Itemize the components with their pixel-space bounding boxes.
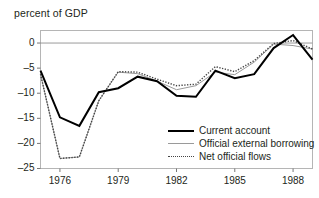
line-solid-thin-icon — [168, 138, 194, 150]
line-solid-thick-icon — [168, 125, 194, 137]
y-tick-label: –5 — [2, 62, 35, 73]
x-tick-label: 1982 — [157, 175, 197, 186]
chart-legend: Current account Official external borrow… — [168, 124, 314, 163]
line-dotted-icon — [168, 151, 194, 163]
series-line-current-account — [41, 35, 313, 126]
legend-item-official-external-borrowing: Official external borrowing — [168, 137, 314, 150]
x-tick-label: 1988 — [273, 175, 313, 186]
legend-label: Current account — [199, 125, 270, 137]
legend-item-net-official-flows: Net official flows — [168, 150, 314, 163]
y-tick-label: –20 — [2, 137, 35, 148]
legend-label: Net official flows — [199, 151, 271, 163]
y-tick-label: –10 — [2, 87, 35, 98]
chart-figure: percent of GDP 0–5–10–15–20–25 197619791… — [0, 0, 319, 198]
y-tick-marks — [37, 43, 41, 168]
y-tick-label: 0 — [2, 37, 35, 48]
x-tick-label: 1976 — [40, 175, 80, 186]
x-tick-marks — [60, 169, 293, 173]
plot-area — [0, 0, 319, 198]
y-tick-label: –25 — [2, 162, 35, 173]
y-tick-label: –15 — [2, 112, 35, 123]
x-tick-label: 1979 — [98, 175, 138, 186]
legend-item-current-account: Current account — [168, 124, 314, 137]
x-tick-label: 1985 — [215, 175, 255, 186]
legend-label: Official external borrowing — [199, 138, 314, 150]
